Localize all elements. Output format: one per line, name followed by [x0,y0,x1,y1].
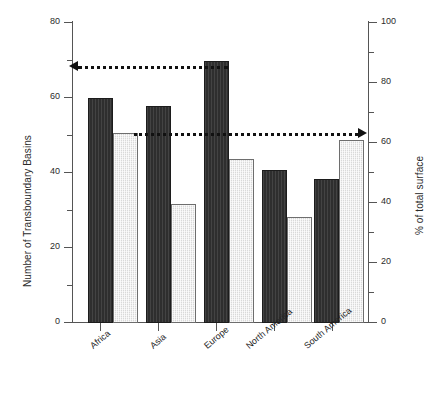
right-axis-tick-20 [368,262,377,263]
right-axis-tick-0 [368,322,377,323]
left-axis-tick-label-60: 60 [34,92,60,101]
bar-north-america-surface [287,217,312,323]
left-axis-tick-label-40: 40 [34,167,60,176]
right-axis-tick-40 [368,202,377,203]
bar-north-america-basins [262,170,287,323]
right-axis-tick-100 [368,22,377,23]
right-axis-tick-80 [368,82,377,83]
chart-container: 80 60 40 20 0 100 80 60 40 20 0 Number o… [0,0,428,396]
x-tick-africa [100,323,101,331]
left-axis-minor-tick-30 [67,210,73,211]
bar-africa-basins [88,98,113,323]
right-axis-tick-label-20: 20 [381,257,409,266]
left-axis-minor-tick-50 [67,135,73,136]
bar-asia-basins [146,106,171,323]
right-axis-minor-tick-90 [368,52,374,53]
right-axis-minor-tick-10 [368,292,374,293]
bar-africa-surface [113,133,138,323]
left-axis-tick-40 [64,172,73,173]
surface-percent-annotation-line [134,133,358,136]
right-axis-tick-label-40: 40 [381,197,409,206]
left-axis-minor-tick-10 [67,285,73,286]
europe-basins-annotation-arrowhead-icon [69,61,78,71]
bar-south-america-surface [339,140,364,323]
right-axis-minor-tick-30 [368,232,374,233]
left-axis-tick-60 [64,97,73,98]
left-axis-tick-label-20: 20 [34,242,60,251]
right-axis-minor-tick-50 [368,172,374,173]
right-axis-title: % of total surface [414,156,425,235]
right-axis-tick-label-0: 0 [381,317,409,326]
right-axis-tick-label-100: 100 [381,17,409,26]
europe-basins-annotation-line [78,66,228,69]
right-axis-tick-60 [368,142,377,143]
left-axis-tick-label-0: 0 [34,317,60,326]
bar-europe-surface [229,159,254,323]
left-axis-tick-80 [64,22,73,23]
bar-south-america-basins [314,179,339,323]
surface-percent-annotation-arrowhead-icon [358,128,367,138]
left-axis-tick-20 [64,247,73,248]
right-axis-minor-tick-70 [368,112,374,113]
right-axis-tick-label-60: 60 [381,137,409,146]
x-axis-label-africa: Africa [88,328,112,350]
bar-asia-surface [171,204,196,323]
left-axis-title: Number of Transboundary Basins [22,135,33,287]
bar-europe-basins [204,61,229,323]
x-axis-label-asia: Asia [148,332,168,351]
left-axis-tick-label-80: 80 [34,17,60,26]
x-tick-asia [158,323,159,331]
right-axis-tick-label-80: 80 [381,77,409,86]
left-axis-tick-0 [64,322,73,323]
